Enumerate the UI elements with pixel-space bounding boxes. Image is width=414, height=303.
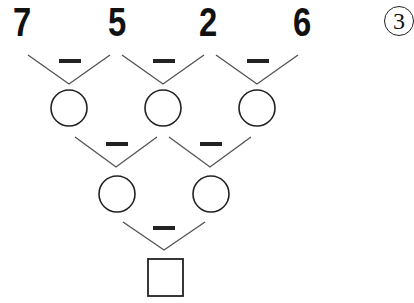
answer-circle-1-3[interactable] [239,90,275,126]
answer-circle-2-1[interactable] [99,176,135,212]
answer-circle-1-1[interactable] [51,90,87,126]
answer-circle-1-2[interactable] [145,90,181,126]
row1-minus-signs [59,59,269,63]
row2-answer-circles[interactable] [99,176,229,212]
final-answer-square[interactable] [148,259,183,296]
row2-minus-signs [106,142,222,146]
row3-minus-sign [153,226,175,230]
row1-answer-circles[interactable] [51,90,275,126]
row2-connectors [75,137,251,167]
answer-circle-2-2[interactable] [193,176,229,212]
